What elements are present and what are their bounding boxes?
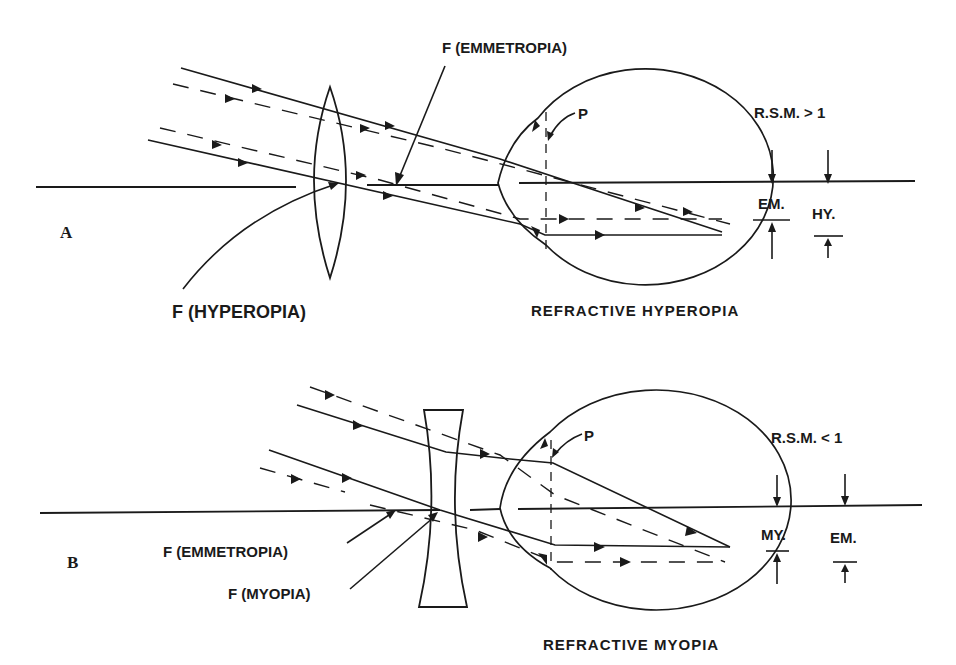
ray-upper-dashed [173, 84, 730, 224]
arrowhead [328, 182, 339, 190]
focal-emmetropia-label-a: F (EMMETROPIA) [442, 39, 567, 56]
ray-upper-dashed-b [310, 387, 725, 562]
p-pointer-a [550, 113, 575, 136]
ray-lower-dashed-b-2 [370, 505, 725, 562]
panel-b: B P F (EMMETROPIA) [40, 387, 922, 653]
arrowhead [386, 510, 396, 519]
focal-hyperopia-label: F (HYPEROPIA) [172, 302, 306, 322]
f-hyperopia-pointer [183, 184, 336, 289]
em-label-b: EM. [830, 529, 857, 546]
arrowhead [773, 497, 781, 507]
panel-a: A P F (EMMETROP [36, 39, 915, 322]
arrowhead [841, 564, 849, 572]
focal-emmetropia-label-b: F (EMMETROPIA) [163, 543, 288, 560]
arrowhead [559, 214, 569, 224]
arrowhead [291, 474, 301, 484]
my-label: MY. [761, 526, 786, 543]
arrowhead [225, 94, 235, 103]
arrowhead [395, 172, 404, 186]
f-emmetropia-pointer-b [347, 513, 392, 543]
optical-axis-right [519, 181, 915, 183]
panel-a-title: REFRACTIVE HYPEROPIA [531, 302, 739, 319]
em-label-a: EM. [758, 195, 785, 212]
optical-axis-mid-b [470, 509, 500, 510]
arrowhead [824, 174, 832, 184]
arrowhead [383, 191, 393, 200]
arrowhead [238, 158, 248, 167]
focal-myopia-label: F (MYOPIA) [228, 585, 311, 602]
refraction-diagram: A P F (EMMETROP [0, 0, 956, 665]
arrowhead [531, 226, 540, 238]
rsm-label-a: R.S.M. > 1 [754, 104, 825, 121]
arrowhead [252, 84, 262, 93]
eye-globe-a [498, 69, 773, 285]
arrowhead [342, 473, 352, 483]
hy-label: HY. [812, 205, 835, 222]
arrowhead [841, 496, 849, 506]
principal-plane-label-a: P [578, 105, 588, 122]
concave-lens [419, 410, 467, 607]
optical-axis-right-b [518, 505, 922, 509]
rsm-label-b: R.S.M. < 1 [771, 429, 842, 446]
panel-a-letter: A [60, 223, 73, 242]
arrowhead [595, 230, 605, 240]
arrowhead [594, 542, 605, 552]
arrowhead [620, 557, 631, 567]
arrowhead [768, 222, 776, 232]
f-myopia-pointer [350, 517, 434, 589]
principal-plane-label-b: P [584, 427, 594, 444]
arrowhead [356, 171, 366, 180]
panel-b-letter: B [67, 553, 78, 572]
eye-globe-b [500, 390, 791, 610]
arrowhead [480, 449, 490, 459]
arrowhead [325, 390, 335, 400]
panel-b-title: REFRACTIVE MYOPIA [543, 636, 719, 653]
f-emmetropia-pointer-a [399, 66, 445, 178]
arrowhead [824, 238, 832, 246]
arrowhead [683, 207, 693, 216]
p-pointer-b [555, 434, 582, 454]
arrowhead [360, 124, 370, 133]
ray-lower-solid-b [269, 450, 730, 547]
optical-axis-left-b [40, 510, 440, 513]
